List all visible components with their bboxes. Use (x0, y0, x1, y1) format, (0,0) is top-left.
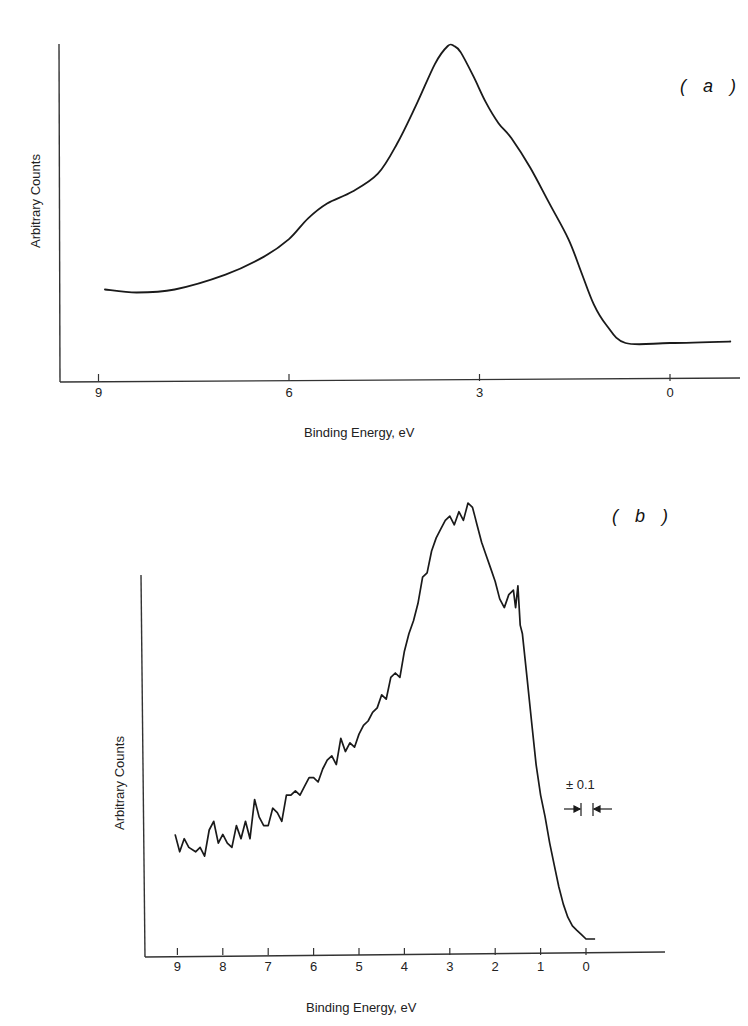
tick-label: 0 (666, 385, 673, 400)
tick-label: 4 (401, 959, 408, 974)
tick-label: 7 (265, 959, 272, 974)
tick-label: 0 (582, 959, 589, 974)
tick-label: 1 (537, 959, 544, 974)
panel-a-tag: ( a ) (680, 76, 742, 97)
panel-b-y-axis-label: Arbitrary Counts (112, 736, 127, 830)
panel-a-x-axis-label: Binding Energy, eV (304, 425, 414, 440)
tick-label: 6 (310, 959, 317, 974)
tick-label: 5 (355, 959, 362, 974)
tick-label: 8 (219, 959, 226, 974)
tick-label: 9 (95, 385, 102, 400)
tick-label: 9 (174, 959, 181, 974)
panel-a-y-axis-label: Arbitrary Counts (28, 154, 43, 248)
panel-b-axes (141, 575, 665, 957)
tick-label: 6 (285, 385, 292, 400)
tick-label: 3 (476, 385, 483, 400)
resolution-annotation: ± 0.1 (566, 777, 595, 792)
panel-b-y-axis (141, 575, 145, 957)
tick-label: 2 (492, 959, 499, 974)
resolution-marker-arrows (564, 803, 612, 816)
panel-a-y-axis (59, 44, 60, 382)
panel-a-spectrum-line (105, 44, 730, 344)
panel-b-x-axis-label: Binding Energy, eV (306, 1000, 416, 1015)
panel-a-axes (59, 44, 740, 382)
panel-b-spectrum-line (175, 503, 595, 939)
panel-b-tag: ( b ) (612, 506, 674, 527)
panel-a-x-axis (60, 378, 740, 382)
tick-label: 3 (446, 959, 453, 974)
